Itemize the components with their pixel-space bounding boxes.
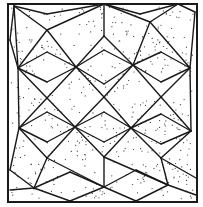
tile-edges — [10, 4, 196, 201]
square-frame — [8, 4, 197, 202]
tessellation-svg — [0, 0, 203, 207]
tessellation-figure: Geometric tessellation with stippled kit… — [0, 0, 203, 207]
